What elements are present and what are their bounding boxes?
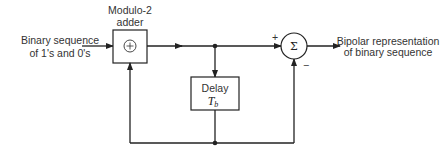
plus-sign: + — [272, 31, 278, 43]
delay-label: Delay — [202, 82, 230, 94]
adder-label-line1: Modulo-2 — [108, 4, 152, 16]
output-label-line2: of binary sequence — [344, 46, 433, 58]
sigma-icon: Σ — [290, 40, 298, 53]
adder-label-line2: adder — [117, 16, 144, 28]
input-label-line2: of 1's and 0's — [29, 47, 90, 59]
block-diagram: Binary sequence of 1's and 0's Modulo-2 … — [0, 0, 441, 153]
junction-dot-bottom — [213, 141, 218, 146]
input-label-line1: Binary sequence — [21, 34, 99, 46]
minus-sign: − — [303, 59, 309, 71]
